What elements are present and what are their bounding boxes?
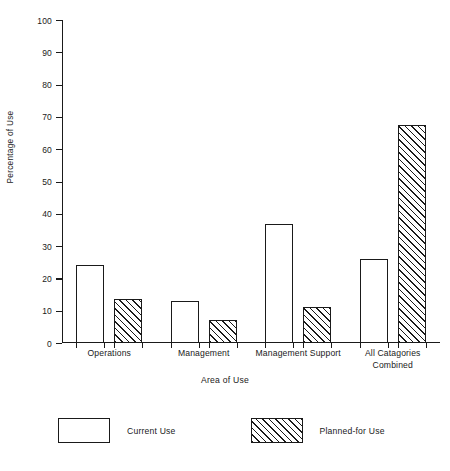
y-axis-title: Percentage of Use	[5, 87, 15, 207]
bar-planned-for-use-0	[114, 299, 142, 343]
y-axis-tick-label: 90	[42, 48, 52, 58]
bar-planned-for-use-2	[303, 307, 331, 343]
y-axis-tick-label: 30	[42, 242, 52, 252]
y-axis-tick-label: 100	[37, 16, 52, 26]
bar-current-use-1	[171, 301, 199, 343]
y-axis-tick-label: 80	[42, 80, 52, 90]
y-axis-tick: 90	[56, 52, 62, 53]
y-axis-tick: 50	[56, 182, 62, 183]
legend-label: Current Use	[127, 426, 176, 436]
bar-current-use-2	[265, 224, 293, 344]
plot-area: 1009080706050403020100	[62, 20, 440, 343]
bar-planned-for-use-1	[209, 320, 237, 343]
y-axis-line	[62, 20, 63, 343]
hatched-swatch	[251, 418, 303, 443]
y-axis-tick-label: 40	[42, 209, 52, 219]
y-axis-tick-label: 20	[42, 274, 52, 284]
bar-planned-for-use-3	[398, 125, 426, 343]
y-axis-tick: 100	[56, 20, 62, 21]
bar-chart-figure: 1009080706050403020100 OperationsManagem…	[0, 0, 450, 471]
outline-swatch	[58, 418, 110, 443]
y-axis-tick-label: 70	[42, 112, 52, 122]
y-axis-tick: 30	[56, 246, 62, 247]
y-axis-tick: 60	[56, 149, 62, 150]
legend-entry: Current Use	[58, 418, 176, 443]
bar-current-use-0	[76, 265, 104, 343]
y-axis-tick-label: 10	[42, 306, 52, 316]
chart-legend: Current UsePlanned-for Use	[58, 418, 385, 443]
y-axis-tick: 80	[56, 85, 62, 86]
y-axis-tick: 0	[56, 343, 62, 344]
y-axis-tick-label: 60	[42, 145, 52, 155]
y-axis-tick: 40	[56, 214, 62, 215]
y-axis-tick: 10	[56, 311, 62, 312]
x-axis-title: Area of Use	[0, 375, 450, 385]
legend-entry: Planned-for Use	[251, 418, 385, 443]
y-axis-tick: 20	[56, 278, 62, 279]
legend-label: Planned-for Use	[320, 426, 385, 436]
bar-current-use-3	[360, 259, 388, 343]
y-axis-tick-label: 50	[42, 177, 52, 187]
y-axis-tick: 70	[56, 117, 62, 118]
x-axis-category-label: All Catagories Combined	[336, 348, 450, 371]
